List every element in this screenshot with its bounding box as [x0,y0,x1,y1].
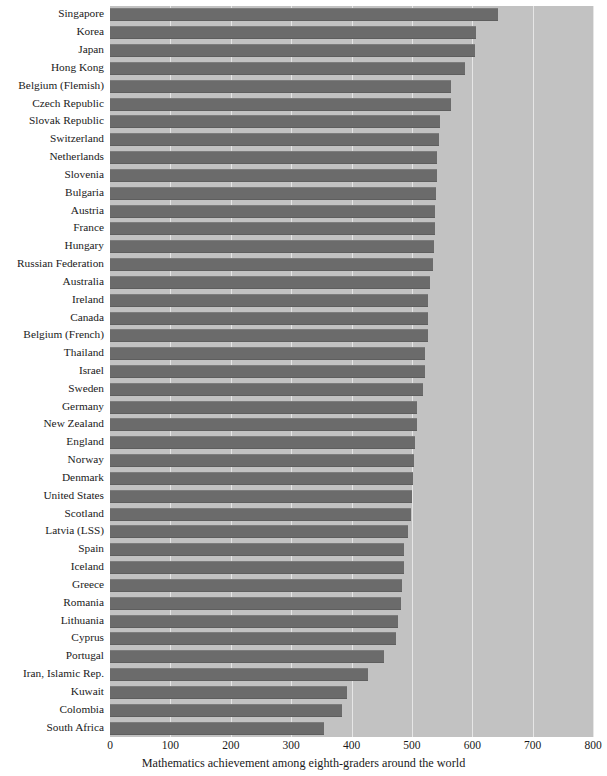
category-label: Slovak Republic [0,114,104,127]
category-label: Hong Kong [0,61,104,74]
bar-row [110,508,593,521]
bar-row [110,44,593,57]
bar [110,222,435,235]
bar [110,454,414,467]
gridline [593,6,594,737]
category-label: Netherlands [0,150,104,163]
bar [110,133,439,146]
bar-row [110,686,593,699]
x-tick-label: 700 [524,739,541,751]
bar-row [110,668,593,681]
category-label: United States [0,489,104,502]
bar [110,686,347,699]
bar [110,668,368,681]
bar-row [110,401,593,414]
bar [110,187,436,200]
bar-row [110,383,593,396]
category-label: Scotland [0,507,104,520]
category-label: Lithuania [0,614,104,627]
bar-row [110,205,593,218]
x-tick-label: 0 [107,739,113,751]
bar [110,115,440,128]
bar-row [110,151,593,164]
category-label: Russian Federation [0,257,104,270]
bar [110,704,342,717]
bar [110,508,411,521]
x-tick-label: 800 [584,739,601,751]
bar [110,98,451,111]
bar-row [110,62,593,75]
bar-row [110,650,593,663]
category-label: Bulgaria [0,186,104,199]
bar-row [110,329,593,342]
bar [110,525,408,538]
category-label: Iceland [0,560,104,573]
bar [110,490,412,503]
x-tick-label: 200 [222,739,239,751]
bar [110,383,423,396]
bar-row [110,632,593,645]
bar-chart: SingaporeKoreaJapanHong KongBelgium (Fle… [0,0,607,776]
bar-row [110,704,593,717]
bar [110,26,476,39]
category-label: England [0,435,104,448]
category-label: Spain [0,542,104,555]
bar [110,561,404,574]
bar [110,294,428,307]
category-label: South Africa [0,721,104,734]
bar-row [110,579,593,592]
category-label: Latvia (LSS) [0,524,104,537]
bar-row [110,418,593,431]
category-label: Greece [0,578,104,591]
x-axis-title: Mathematics achievement among eighth-gra… [0,756,607,771]
bar [110,722,324,735]
category-label: Germany [0,400,104,413]
bar [110,436,415,449]
category-label: Iran, Islamic Rep. [0,667,104,680]
category-label: Kuwait [0,685,104,698]
category-label: Portugal [0,649,104,662]
category-label: Canada [0,311,104,324]
category-label: Israel [0,364,104,377]
bar [110,632,396,645]
bar [110,62,465,75]
bar [110,650,384,663]
x-tick-label: 400 [343,739,360,751]
x-tick-label: 300 [283,739,300,751]
bar [110,418,417,431]
bar-row [110,276,593,289]
bar-row [110,365,593,378]
category-label: Colombia [0,703,104,716]
category-axis-labels: SingaporeKoreaJapanHong KongBelgium (Fle… [0,6,104,737]
category-label: Thailand [0,346,104,359]
bar-row [110,347,593,360]
bar [110,365,425,378]
category-label: Czech Republic [0,97,104,110]
category-label: Slovenia [0,168,104,181]
bar-row [110,454,593,467]
bar [110,169,437,182]
bar-row [110,80,593,93]
bar-row [110,8,593,21]
category-label: New Zealand [0,417,104,430]
bar-row [110,169,593,182]
plot-area [110,6,593,737]
bar [110,258,433,271]
bar-row [110,294,593,307]
bar-row [110,98,593,111]
bar-row [110,490,593,503]
bar [110,205,435,218]
category-label: Austria [0,204,104,217]
bar [110,579,402,592]
bar-row [110,222,593,235]
bar-row [110,722,593,735]
bar-row [110,525,593,538]
category-label: Korea [0,25,104,38]
category-label: Cyprus [0,631,104,644]
bar-row [110,561,593,574]
category-label: Belgium (Flemish) [0,79,104,92]
bar [110,312,428,325]
bar [110,44,475,57]
bar [110,8,498,21]
x-tick-label: 600 [464,739,481,751]
